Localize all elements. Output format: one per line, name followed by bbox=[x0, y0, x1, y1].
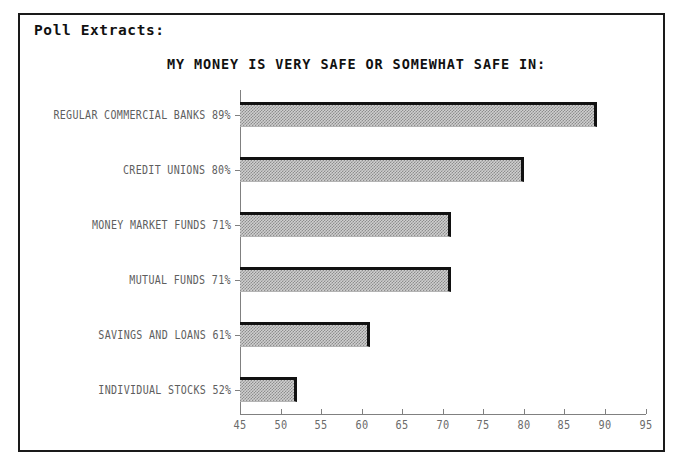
bar-credit-unions bbox=[240, 157, 524, 182]
x-axis-tick bbox=[281, 409, 282, 414]
x-axis-tick-label: 65 bbox=[390, 417, 415, 432]
x-axis-line bbox=[240, 414, 646, 415]
x-axis-tick bbox=[240, 409, 241, 414]
x-axis-tick-label: 45 bbox=[228, 417, 253, 432]
category-label: MUTUAL FUNDS 71% bbox=[130, 273, 231, 287]
category-label-row: MUTUAL FUNDS 71% bbox=[2, 273, 231, 287]
x-axis-tick bbox=[483, 409, 484, 414]
x-axis-tick-label: 60 bbox=[349, 417, 374, 432]
x-axis-tick bbox=[646, 409, 647, 414]
bar-money-market-funds bbox=[240, 212, 451, 237]
x-axis-tick bbox=[564, 409, 565, 414]
x-axis-tick bbox=[362, 409, 363, 414]
bar-chart-plot-area: REGULAR COMMERCIAL BANKS 89%CREDIT UNION… bbox=[20, 15, 667, 454]
x-axis-tick bbox=[443, 409, 444, 414]
y-axis-tick bbox=[235, 170, 240, 171]
category-label: SAVINGS AND LOANS 61% bbox=[98, 328, 231, 342]
y-axis-tick bbox=[235, 280, 240, 281]
y-axis-tick bbox=[235, 335, 240, 336]
y-axis-line bbox=[240, 90, 241, 414]
x-axis-tick-label: 55 bbox=[309, 417, 334, 432]
poll-extracts-panel: Poll Extracts: MY MONEY IS VERY SAFE OR … bbox=[18, 13, 665, 452]
category-label: MONEY MARKET FUNDS 71% bbox=[92, 218, 232, 232]
x-axis-tick-label: 75 bbox=[471, 417, 496, 432]
x-axis-tick bbox=[524, 409, 525, 414]
category-label-row: REGULAR COMMERCIAL BANKS 89% bbox=[2, 108, 231, 122]
x-axis-tick bbox=[321, 409, 322, 414]
x-axis-tick bbox=[402, 409, 403, 414]
category-label-row: INDIVIDUAL STOCKS 52% bbox=[2, 383, 231, 397]
x-axis-tick-label: 95 bbox=[633, 417, 658, 432]
x-axis-tick-label: 70 bbox=[430, 417, 455, 432]
category-label: INDIVIDUAL STOCKS 52% bbox=[98, 383, 231, 397]
x-axis-tick bbox=[605, 409, 606, 414]
x-axis-tick-label: 80 bbox=[512, 417, 537, 432]
x-axis-tick-label: 90 bbox=[593, 417, 618, 432]
category-label: CREDIT UNIONS 80% bbox=[123, 163, 231, 177]
bar-individual-stocks bbox=[240, 377, 297, 402]
bar-savings-and-loans bbox=[240, 322, 370, 347]
bar-regular-commercial-banks bbox=[240, 102, 597, 127]
category-label-row: MONEY MARKET FUNDS 71% bbox=[2, 218, 231, 232]
y-axis-tick bbox=[235, 115, 240, 116]
category-label-row: CREDIT UNIONS 80% bbox=[2, 163, 231, 177]
y-axis-tick bbox=[235, 390, 240, 391]
x-axis-tick-label: 50 bbox=[268, 417, 293, 432]
y-axis-tick bbox=[235, 225, 240, 226]
category-label: REGULAR COMMERCIAL BANKS 89% bbox=[53, 108, 231, 122]
bar-mutual-funds bbox=[240, 267, 451, 292]
x-axis-tick-label: 85 bbox=[552, 417, 577, 432]
category-label-row: SAVINGS AND LOANS 61% bbox=[2, 328, 231, 342]
